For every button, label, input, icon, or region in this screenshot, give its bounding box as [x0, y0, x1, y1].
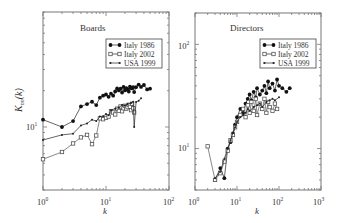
boards-legend: Italy 1986Italy 2002USA 1999 [106, 39, 162, 68]
legend-label: Italy 1986 [278, 41, 309, 50]
directors-title: Directors [230, 23, 264, 33]
series-usa-1999 [42, 97, 142, 141]
directors-ytick-label-1: 102 [178, 40, 190, 51]
legend-label: Italy 2002 [278, 50, 309, 59]
directors-xtick-label-2: 102 [272, 196, 284, 207]
boards-xtick-label-2: 102 [163, 196, 175, 207]
series-italy-2002 [41, 102, 136, 161]
directors-legend: Italy 1986Italy 2002USA 1999 [260, 39, 316, 68]
boards-xtick-label-0: 100 [37, 196, 49, 207]
legend-label: Italy 1986 [124, 41, 155, 50]
boards-ytick-label-0: 101 [26, 121, 38, 132]
boards-panel: Boards Italy 1986Italy 2002USA 1999 100 … [13, 12, 175, 216]
legend-label: USA 1999 [124, 59, 156, 68]
directors-xtick-label-3: 103 [313, 196, 325, 207]
directors-panel: Directors Italy 1986Italy 2002USA 1999 1… [178, 13, 325, 216]
series-italy-1986 [213, 78, 291, 182]
directors-xtick-label-1: 101 [230, 196, 242, 207]
legend-label: USA 1999 [278, 59, 310, 68]
directors-xtick-label-0: 100 [188, 196, 200, 207]
directors-series [206, 78, 292, 182]
directors-x-axis-label: k [255, 206, 260, 216]
series-italy-2002 [206, 97, 279, 181]
boards-y-axis-label: Knn(k) [13, 88, 25, 113]
figure-canvas: Boards Italy 1986Italy 2002USA 1999 100 … [0, 0, 337, 223]
boards-series [41, 83, 152, 161]
directors-ytick-label-0: 101 [178, 142, 190, 153]
boards-title: Boards [80, 23, 106, 33]
boards-x-axis-label: k [103, 206, 108, 216]
legend-label: Italy 2002 [124, 50, 155, 59]
